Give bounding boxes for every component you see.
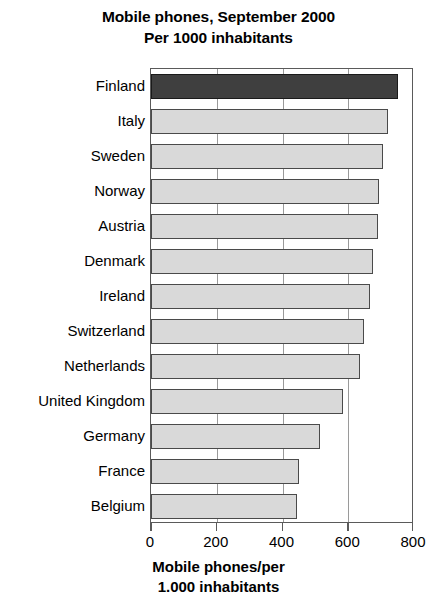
x-axis-tick-marks bbox=[150, 523, 413, 531]
x-tick-label-200: 200 bbox=[203, 533, 228, 551]
bar-row bbox=[151, 319, 412, 344]
x-tick-label-0: 0 bbox=[146, 533, 154, 551]
category-label-norway: Norway bbox=[0, 182, 145, 199]
bar-italy[interactable] bbox=[151, 109, 388, 134]
x-tick-label-800: 800 bbox=[400, 533, 425, 551]
category-label-austria: Austria bbox=[0, 217, 145, 234]
x-axis-title: Mobile phones/per 1.000 inhabitants bbox=[0, 557, 437, 597]
category-label-france: France bbox=[0, 462, 145, 479]
bar-row bbox=[151, 249, 412, 274]
bar-united-kingdom[interactable] bbox=[151, 389, 343, 414]
bar-sweden[interactable] bbox=[151, 144, 383, 169]
chart-title-line-2: Per 1000 inhabitants bbox=[0, 27, 437, 48]
bar-row bbox=[151, 74, 412, 99]
y-axis-category-labels: FinlandItalySwedenNorwayAustriaDenmarkIr… bbox=[0, 68, 145, 523]
chart-title-line-1: Mobile phones, September 2000 bbox=[0, 6, 437, 27]
bar-row bbox=[151, 354, 412, 379]
category-label-sweden: Sweden bbox=[0, 147, 145, 164]
bar-belgium[interactable] bbox=[151, 494, 297, 519]
x-axis-title-line-2: 1.000 inhabitants bbox=[0, 577, 437, 597]
category-label-ireland: Ireland bbox=[0, 287, 145, 304]
bar-france[interactable] bbox=[151, 459, 299, 484]
bar-netherlands[interactable] bbox=[151, 354, 360, 379]
tick-mark-800 bbox=[412, 523, 414, 531]
x-tick-label-600: 600 bbox=[335, 533, 360, 551]
x-tick-label-400: 400 bbox=[269, 533, 294, 551]
bar-switzerland[interactable] bbox=[151, 319, 364, 344]
category-label-italy: Italy bbox=[0, 112, 145, 129]
bar-row bbox=[151, 109, 412, 134]
plot-area bbox=[150, 68, 413, 523]
category-label-denmark: Denmark bbox=[0, 252, 145, 269]
bar-row bbox=[151, 389, 412, 414]
bar-germany[interactable] bbox=[151, 424, 320, 449]
bar-row bbox=[151, 179, 412, 204]
bar-ireland[interactable] bbox=[151, 284, 370, 309]
bar-norway[interactable] bbox=[151, 179, 379, 204]
category-label-netherlands: Netherlands bbox=[0, 357, 145, 374]
x-axis-title-line-1: Mobile phones/per bbox=[0, 557, 437, 577]
bar-row bbox=[151, 144, 412, 169]
x-axis-tick-labels: 0200400600800 bbox=[0, 533, 437, 553]
category-label-united-kingdom: United Kingdom bbox=[0, 392, 145, 409]
category-label-switzerland: Switzerland bbox=[0, 322, 145, 339]
tick-mark-200 bbox=[216, 523, 218, 531]
tick-mark-400 bbox=[282, 523, 284, 531]
tick-mark-0 bbox=[150, 523, 152, 531]
category-label-germany: Germany bbox=[0, 427, 145, 444]
bar-finland[interactable] bbox=[151, 74, 398, 99]
category-label-finland: Finland bbox=[0, 77, 145, 94]
bar-row bbox=[151, 459, 412, 484]
bar-row bbox=[151, 284, 412, 309]
chart-title: Mobile phones, September 2000 Per 1000 i… bbox=[0, 6, 437, 48]
bar-row bbox=[151, 494, 412, 519]
bars-layer bbox=[151, 69, 412, 522]
tick-mark-600 bbox=[347, 523, 349, 531]
bar-denmark[interactable] bbox=[151, 249, 373, 274]
bar-austria[interactable] bbox=[151, 214, 378, 239]
category-label-belgium: Belgium bbox=[0, 497, 145, 514]
bar-row bbox=[151, 214, 412, 239]
bar-row bbox=[151, 424, 412, 449]
